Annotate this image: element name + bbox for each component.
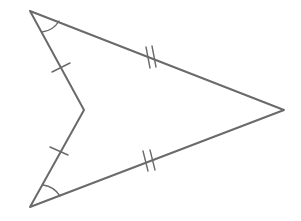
angle-arc-top-left-apex bbox=[42, 21, 59, 32]
angle-arc-bottom-left-apex bbox=[43, 185, 60, 196]
tick-group-upper-long-edge bbox=[146, 46, 156, 68]
tick-mark bbox=[152, 46, 156, 67]
tick-mark bbox=[52, 63, 70, 72]
geometry-figure-canvas bbox=[0, 0, 301, 221]
arrowhead-figure-svg bbox=[0, 0, 301, 221]
tick-group-upper-short-edge bbox=[52, 63, 70, 72]
tick-mark bbox=[143, 151, 148, 171]
figure-outline-path bbox=[30, 11, 284, 207]
